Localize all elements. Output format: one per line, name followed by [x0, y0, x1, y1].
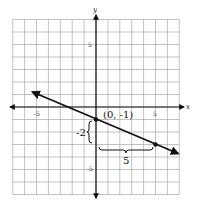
run-brace [99, 147, 153, 153]
run-label: 5 [123, 155, 129, 166]
rise-label: -2 [76, 127, 86, 138]
point-label: (0, -1) [103, 109, 133, 120]
tick-label-x-neg5: -5 [34, 110, 40, 117]
coordinate-plane: x y -5 5 5 -5 (0, -1) -2 5 [0, 0, 199, 205]
x-axis-label: x [186, 103, 190, 111]
point-y-intercept [94, 117, 98, 121]
tick-label-x-5: 5 [153, 110, 157, 117]
y-axis-label: y [92, 6, 98, 14]
tick-label-y-5: 5 [88, 41, 92, 48]
point-5-neg3 [153, 142, 157, 146]
tick-label-y-neg5: -5 [87, 165, 93, 172]
